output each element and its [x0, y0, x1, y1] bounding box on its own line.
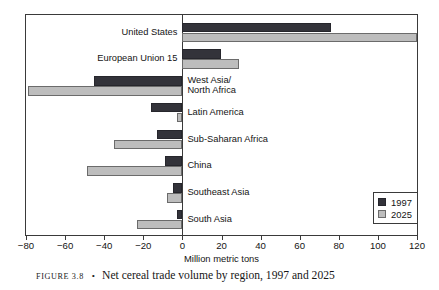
x-tick-label--60: −60 [57, 240, 73, 251]
x-tick-label--20: −20 [135, 240, 151, 251]
zero-axis-line [182, 15, 183, 235]
bar-1997-7 [173, 183, 183, 193]
x-tick-label-120: 120 [409, 240, 425, 251]
bar-1997-4 [151, 103, 182, 113]
legend-swatch-2025 [378, 210, 386, 218]
bar-1997-6 [165, 156, 183, 166]
bar-2025-5 [114, 140, 182, 150]
category-label-2: European Union 15 [97, 53, 177, 64]
bar-2025-6 [87, 166, 183, 176]
x-tick-label-100: 100 [370, 240, 386, 251]
bar-2025-8 [137, 220, 182, 230]
bar-2025-1 [182, 33, 417, 43]
caption-figure-number: FIGURE 3.8 [36, 272, 84, 281]
bar-2025-7 [167, 193, 183, 203]
bar-1997-3 [94, 76, 182, 86]
x-tick-label-80: 80 [333, 240, 344, 251]
x-axis-tick-labels: −80−60−40−20020406080100120 [25, 240, 418, 254]
figure-container: United StatesEuropean Union 15West Asia/… [0, 0, 439, 290]
bar-2025-4 [177, 113, 183, 123]
category-label-1: United States [122, 27, 178, 38]
x-tick-label-60: 60 [294, 240, 305, 251]
bar-2025-2 [182, 59, 239, 69]
category-label-7: Southeast Asia [187, 187, 249, 198]
chart-plot-area: United StatesEuropean Union 15West Asia/… [25, 14, 418, 236]
bar-1997-5 [157, 130, 182, 140]
x-tick-label--80: −80 [18, 240, 34, 251]
x-tick-label-40: 40 [255, 240, 266, 251]
chart-legend: 1997 2025 [373, 192, 418, 224]
x-tick-label-20: 20 [216, 240, 227, 251]
legend-swatch-1997 [378, 198, 386, 206]
category-label-6: China [187, 160, 211, 171]
bar-2025-3 [28, 86, 182, 96]
legend-item-2025: 2025 [378, 208, 412, 220]
caption-separator: • [92, 271, 95, 281]
figure-caption: FIGURE 3.8 • Net cereal trade volume by … [36, 269, 416, 285]
bar-1997-2 [182, 49, 221, 59]
category-label-4: Latin America [187, 107, 243, 118]
x-tick-label-0: 0 [180, 240, 185, 251]
legend-label-1997: 1997 [391, 197, 412, 208]
chart-plot-inner: United StatesEuropean Union 15West Asia/… [26, 15, 417, 235]
x-axis-title: Million metric tons [25, 253, 418, 264]
category-label-5: Sub-Saharan Africa [187, 134, 268, 145]
x-tick-label--40: −40 [96, 240, 112, 251]
category-label-8: South Asia [187, 214, 231, 225]
bar-1997-1 [182, 23, 331, 33]
legend-item-1997: 1997 [378, 196, 412, 208]
category-label-3: West Asia/ North Africa [187, 75, 236, 96]
legend-label-2025: 2025 [391, 209, 412, 220]
caption-text: Net cereal trade volume by region, 1997 … [102, 269, 335, 282]
bar-1997-8 [177, 210, 183, 220]
